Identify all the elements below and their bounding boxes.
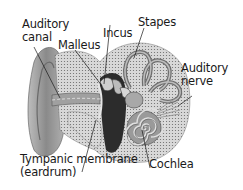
- label-auditory-nerve-line2: nerve: [181, 75, 228, 88]
- label-malleus: Malleus: [58, 39, 100, 52]
- label-auditory-nerve: Auditory nerve: [181, 62, 228, 88]
- label-tympanic-membrane-line2: (eardrum): [20, 166, 138, 179]
- label-tympanic-membrane: Tympanic membrane (eardrum): [20, 153, 138, 179]
- label-incus: Incus: [103, 27, 132, 40]
- label-stapes: Stapes: [138, 16, 176, 29]
- vestibule: [125, 92, 143, 108]
- label-cochlea: Cochlea: [149, 158, 194, 171]
